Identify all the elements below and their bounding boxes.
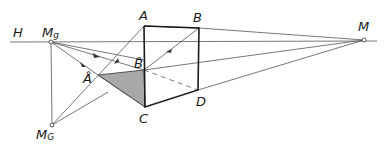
- horizon-line: [10, 41, 377, 42]
- line-mg-mG: [51, 42, 52, 125]
- vp-mg-marker: [49, 40, 53, 44]
- label-h: H: [13, 25, 23, 40]
- dashed-b-ring-d: [144, 70, 198, 90]
- label-b: B: [193, 10, 202, 25]
- shaded-triangle: [98, 70, 145, 107]
- line-mG-short: [52, 92, 108, 125]
- label-c: C: [139, 111, 149, 126]
- perspective-diagram: H Mg M MG A B C D Å B̊: [0, 0, 391, 152]
- line-d-m: [198, 40, 364, 90]
- arrow-icon: [93, 53, 100, 58]
- label-m: M: [358, 19, 369, 34]
- label-mg: Mg: [42, 25, 59, 40]
- label-d: D: [196, 94, 206, 109]
- vp-m-marker: [362, 38, 366, 42]
- label-mG: MG: [36, 127, 54, 142]
- label-b-ring: B̊: [134, 56, 143, 71]
- label-a-ring: Å: [82, 71, 92, 86]
- label-a: A: [138, 8, 148, 23]
- line-b-m: [199, 28, 364, 40]
- vp-mG-marker: [50, 123, 54, 127]
